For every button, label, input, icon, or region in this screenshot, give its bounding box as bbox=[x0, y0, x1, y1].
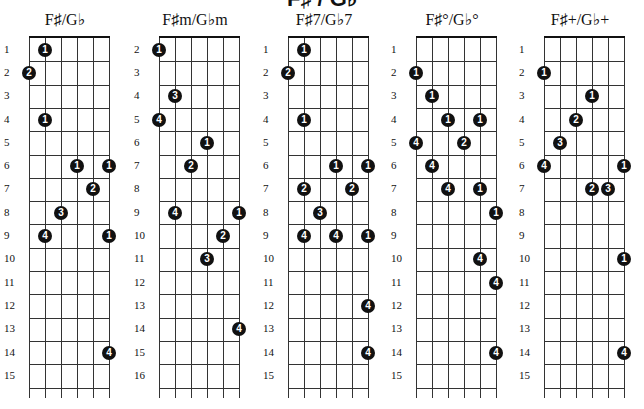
fret-number-label: 4 bbox=[263, 113, 281, 125]
finger-dot: 1 bbox=[70, 159, 84, 173]
fret-number-label: 5 bbox=[391, 136, 409, 148]
fret-line bbox=[416, 178, 497, 179]
finger-dot: 2 bbox=[184, 159, 198, 173]
fretboard: 1123412314 bbox=[544, 38, 625, 398]
finger-dot: 1 bbox=[473, 113, 487, 127]
fret-number-label: 11 bbox=[263, 276, 281, 288]
fret-number-label: 5 bbox=[519, 136, 537, 148]
fret-line bbox=[29, 224, 110, 225]
chord-diagram: F♯m/G♭m23456789101112131415161341241234 bbox=[130, 0, 260, 409]
fret-line bbox=[159, 178, 240, 179]
chord-diagram: F♯°/G♭°123456789101112131415111142441144… bbox=[387, 0, 517, 409]
finger-dot: 1 bbox=[617, 252, 631, 266]
finger-dot: 2 bbox=[585, 182, 599, 196]
finger-dot: 1 bbox=[102, 229, 116, 243]
fret-line bbox=[416, 388, 497, 389]
fret-number-label: 7 bbox=[4, 182, 22, 194]
fret-line bbox=[29, 388, 110, 389]
fret-number-label: 5 bbox=[4, 136, 22, 148]
fret-number-label: 9 bbox=[263, 229, 281, 241]
finger-dot: 3 bbox=[553, 136, 567, 150]
fret-line bbox=[288, 155, 369, 156]
fret-number-label: 9 bbox=[4, 229, 22, 241]
fret-number-label: 8 bbox=[134, 182, 152, 194]
fret-number-label: 8 bbox=[391, 206, 409, 218]
fretboard-top-line bbox=[416, 36, 497, 38]
fret-line bbox=[288, 201, 369, 202]
fret-line bbox=[544, 248, 625, 249]
fret-line bbox=[29, 108, 110, 109]
finger-dot: 3 bbox=[313, 206, 327, 220]
finger-dot: 3 bbox=[601, 182, 615, 196]
fret-line bbox=[288, 85, 369, 86]
fret-line bbox=[544, 108, 625, 109]
fret-line bbox=[159, 155, 240, 156]
fret-line bbox=[416, 224, 497, 225]
fret-line bbox=[29, 85, 110, 86]
string-line bbox=[207, 38, 208, 398]
fret-number-label: 7 bbox=[263, 182, 281, 194]
finger-dot: 1 bbox=[329, 159, 343, 173]
fret-line bbox=[29, 271, 110, 272]
fret-line bbox=[416, 248, 497, 249]
finger-dot: 2 bbox=[345, 182, 359, 196]
fret-number-label: 15 bbox=[4, 369, 22, 381]
string-line bbox=[191, 38, 192, 398]
fret-line bbox=[288, 318, 369, 319]
fret-line bbox=[544, 131, 625, 132]
fret-number-label: 3 bbox=[519, 89, 537, 101]
fret-number-label: 16 bbox=[134, 369, 152, 381]
fretboard: 1211123414 bbox=[29, 38, 110, 398]
fret-line bbox=[544, 271, 625, 272]
fret-number-label: 3 bbox=[134, 66, 152, 78]
chord-diagram: F♯/G♭1234567891011121314151211123414 bbox=[0, 0, 130, 409]
chord-title: F♯/G♭ bbox=[0, 10, 130, 29]
fret-number-label: 10 bbox=[391, 252, 409, 264]
finger-dot: 2 bbox=[281, 66, 295, 80]
fret-number-label: 12 bbox=[4, 299, 22, 311]
fret-line bbox=[544, 178, 625, 179]
string-line bbox=[624, 38, 625, 398]
string-line bbox=[159, 38, 160, 398]
fret-line bbox=[29, 294, 110, 295]
fret-line bbox=[288, 131, 369, 132]
fret-line bbox=[416, 155, 497, 156]
fret-line bbox=[159, 248, 240, 249]
fret-number-label: 13 bbox=[391, 322, 409, 334]
fret-line bbox=[159, 61, 240, 62]
fret-number-label: 14 bbox=[263, 346, 281, 358]
fret-line bbox=[29, 178, 110, 179]
fret-number-label: 1 bbox=[263, 43, 281, 55]
fret-number-label: 11 bbox=[134, 252, 152, 264]
finger-dot: 1 bbox=[297, 43, 311, 57]
fret-number-label: 4 bbox=[519, 113, 537, 125]
chord-title: F♯+/G♭+ bbox=[515, 10, 644, 29]
fret-number-label: 15 bbox=[519, 369, 537, 381]
finger-dot: 2 bbox=[297, 182, 311, 196]
fret-number-label: 2 bbox=[391, 66, 409, 78]
chord-title: F♯m/G♭m bbox=[130, 10, 260, 29]
fret-line bbox=[288, 178, 369, 179]
fret-line bbox=[288, 108, 369, 109]
finger-dot: 4 bbox=[409, 136, 423, 150]
chord-diagram: F♯7/G♭7123456789101112131415121112234414… bbox=[259, 0, 389, 409]
finger-dot: 2 bbox=[216, 229, 230, 243]
fret-line bbox=[544, 61, 625, 62]
fretboard-top-line bbox=[159, 36, 240, 38]
finger-dot: 1 bbox=[297, 113, 311, 127]
fret-line bbox=[159, 364, 240, 365]
finger-dot: 4 bbox=[297, 229, 311, 243]
fret-number-label: 9 bbox=[519, 229, 537, 241]
fret-line bbox=[288, 364, 369, 365]
fretboard-top-line bbox=[544, 36, 625, 38]
chord-title: F♯°/G♭° bbox=[387, 10, 517, 29]
finger-dot: 1 bbox=[102, 159, 116, 173]
finger-dot: 4 bbox=[537, 159, 551, 173]
fret-line bbox=[29, 248, 110, 249]
fret-number-label: 15 bbox=[391, 369, 409, 381]
finger-dot: 1 bbox=[361, 229, 375, 243]
fret-number-label: 10 bbox=[4, 252, 22, 264]
fret-number-label: 14 bbox=[519, 346, 537, 358]
finger-dot: 1 bbox=[425, 89, 439, 103]
string-line bbox=[29, 38, 30, 398]
